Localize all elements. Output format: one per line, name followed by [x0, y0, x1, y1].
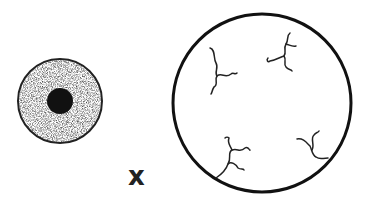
- diagram-canvas: [0, 0, 370, 211]
- small-cell: [18, 59, 102, 143]
- large-cell: [173, 14, 351, 192]
- nucleus: [47, 88, 73, 114]
- cross-operator: x: [128, 163, 145, 189]
